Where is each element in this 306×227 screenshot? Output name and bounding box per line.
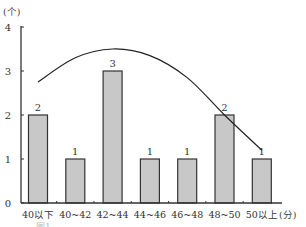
- bars-layer: [29, 71, 272, 203]
- y-tick-label: 0: [5, 198, 11, 209]
- x-tick-label: 50以上: [246, 209, 278, 220]
- bar: [66, 159, 85, 203]
- data-label: 2: [221, 102, 227, 113]
- data-label: 1: [147, 146, 153, 157]
- bar: [178, 159, 197, 203]
- bar: [103, 71, 122, 203]
- x-tick-label: 42~44: [97, 209, 129, 220]
- x-tick-labels: 40以下40~4242~4444~4646~4848~5050以上: [22, 201, 278, 220]
- figure-caption: 图1 …: [36, 222, 63, 227]
- x-tick-label: 48~50: [208, 209, 240, 220]
- y-tick-label: 3: [5, 66, 11, 77]
- histogram-chart: 01234 40以下40~4242~4444~4646~4848~5050以上 …: [0, 0, 306, 227]
- bar: [29, 115, 48, 203]
- x-tick-label: 44~46: [134, 209, 166, 220]
- y-tick-label: 4: [5, 22, 11, 33]
- x-tick-label: 40以下: [22, 209, 54, 220]
- data-label: 1: [184, 146, 190, 157]
- data-label: 2: [35, 102, 41, 113]
- bar: [252, 159, 271, 203]
- y-tick-label: 2: [5, 110, 11, 121]
- bar: [140, 159, 159, 203]
- y-tick-label: 1: [5, 154, 11, 165]
- x-axis-label: (分): [279, 209, 296, 220]
- y-axis-label: (个): [3, 6, 20, 17]
- data-label: 3: [109, 58, 115, 69]
- x-tick-label: 40~42: [59, 209, 91, 220]
- x-tick-label: 46~48: [171, 209, 203, 220]
- data-label: 1: [72, 146, 78, 157]
- bar: [215, 115, 234, 203]
